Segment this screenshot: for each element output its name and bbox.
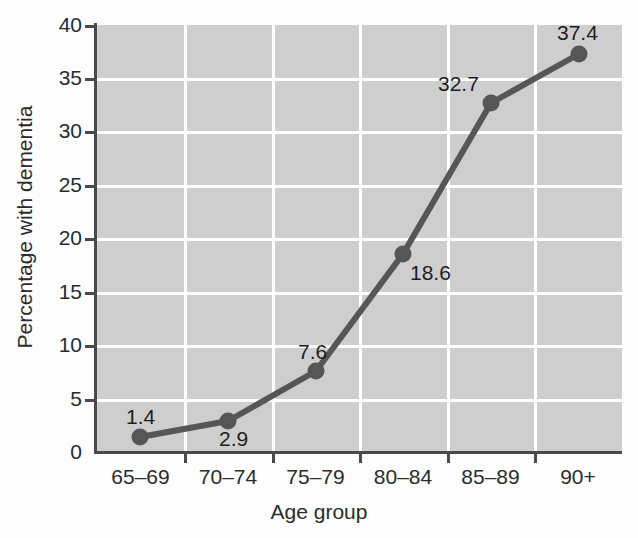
y-tick-label: 0 bbox=[36, 441, 82, 462]
gridline-vertical bbox=[272, 25, 275, 452]
x-tick-label: 85–89 bbox=[447, 466, 534, 487]
y-tick-mark bbox=[85, 399, 96, 402]
y-tick-label: 30 bbox=[36, 120, 82, 141]
y-tick-label: 25 bbox=[36, 174, 82, 195]
y-tick-mark bbox=[85, 78, 96, 81]
x-tick-mark bbox=[447, 452, 450, 463]
y-tick-label: 35 bbox=[36, 67, 82, 88]
data-point-label: 18.6 bbox=[410, 262, 451, 283]
y-tick-label: 40 bbox=[36, 14, 82, 35]
data-point-label: 1.4 bbox=[126, 406, 155, 427]
gridline-vertical bbox=[359, 25, 362, 452]
x-tick-label: 90+ bbox=[534, 466, 622, 487]
y-tick-mark bbox=[85, 238, 96, 241]
y-axis-title: Percentage with dementia bbox=[13, 62, 37, 392]
gridline-vertical bbox=[534, 25, 537, 452]
data-point-label: 7.6 bbox=[298, 341, 327, 362]
x-tick-mark bbox=[534, 452, 537, 463]
y-tick-label: 5 bbox=[36, 388, 82, 409]
data-point-label: 2.9 bbox=[219, 428, 248, 449]
x-tick-label: 75–79 bbox=[272, 466, 359, 487]
y-tick-label: 20 bbox=[36, 227, 82, 248]
data-point-label: 37.4 bbox=[557, 22, 598, 43]
x-tick-mark bbox=[184, 452, 187, 463]
x-tick-label: 80–84 bbox=[359, 466, 447, 487]
y-tick-mark bbox=[85, 345, 96, 348]
y-tick-mark bbox=[85, 292, 96, 295]
x-axis-line bbox=[94, 451, 622, 454]
data-point-label: 32.7 bbox=[438, 73, 479, 94]
x-axis-title: Age group bbox=[0, 500, 638, 524]
y-tick-mark bbox=[85, 25, 96, 28]
y-tick-mark bbox=[85, 185, 96, 188]
x-tick-mark bbox=[359, 452, 362, 463]
x-tick-mark bbox=[272, 452, 275, 463]
y-tick-label: 15 bbox=[36, 281, 82, 302]
x-tick-label: 70–74 bbox=[184, 466, 272, 487]
plot-area bbox=[97, 25, 622, 452]
x-tick-label: 65–69 bbox=[97, 466, 184, 487]
y-tick-mark bbox=[85, 131, 96, 134]
y-tick-label: 10 bbox=[36, 334, 82, 355]
dementia-prevalence-chart: 40 35 30 25 20 15 10 5 0 65–69 70–74 75–… bbox=[0, 0, 638, 538]
gridline-vertical bbox=[184, 25, 187, 452]
